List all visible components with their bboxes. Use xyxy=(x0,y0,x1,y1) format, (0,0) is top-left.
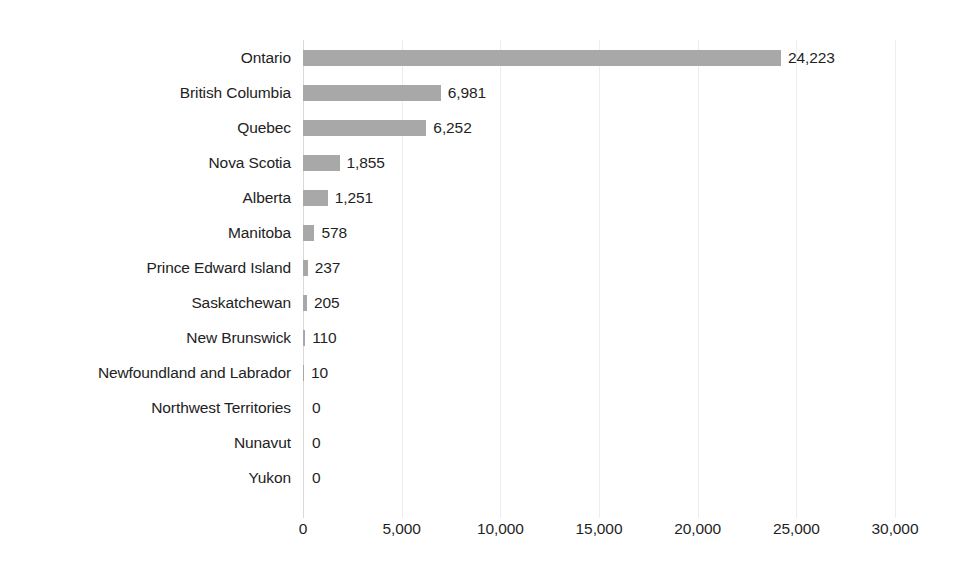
bar-value-label: 1,251 xyxy=(335,190,373,206)
bar-container: 578 xyxy=(303,215,960,250)
bar-value-label: 24,223 xyxy=(788,50,835,66)
category-label: New Brunswick xyxy=(0,330,291,346)
bar-row: Alberta1,251 xyxy=(0,180,960,215)
x-tick-label: 5,000 xyxy=(383,521,421,537)
bar-row: Manitoba578 xyxy=(0,215,960,250)
bar-container: 10 xyxy=(303,355,960,390)
bar-container: 0 xyxy=(303,460,960,495)
bar-row: Prince Edward Island237 xyxy=(0,250,960,285)
bar-row: Saskatchewan205 xyxy=(0,285,960,320)
x-tick-label: 25,000 xyxy=(773,521,820,537)
bar[interactable] xyxy=(303,155,340,171)
bar[interactable] xyxy=(303,330,305,346)
bar-container: 1,855 xyxy=(303,145,960,180)
category-label: Ontario xyxy=(0,50,291,66)
bar[interactable] xyxy=(303,120,426,136)
x-axis-tick-labels: 05,00010,00015,00020,00025,00030,000 xyxy=(0,521,960,545)
bar-container: 6,981 xyxy=(303,75,960,110)
category-label: Northwest Territories xyxy=(0,400,291,416)
bar-container: 0 xyxy=(303,390,960,425)
bar-value-label: 6,981 xyxy=(448,85,486,101)
category-label: Manitoba xyxy=(0,225,291,241)
bar-value-label: 0 xyxy=(312,470,321,486)
bar-container: 6,252 xyxy=(303,110,960,145)
bar-row: Nova Scotia1,855 xyxy=(0,145,960,180)
category-label: Quebec xyxy=(0,120,291,136)
bar[interactable] xyxy=(303,225,314,241)
bar-value-label: 237 xyxy=(315,260,341,276)
bar[interactable] xyxy=(303,295,307,311)
category-label: Newfoundland and Labrador xyxy=(0,365,291,381)
category-label: Nunavut xyxy=(0,435,291,451)
bar-container: 237 xyxy=(303,250,960,285)
x-tick-label: 30,000 xyxy=(872,521,919,537)
bar-row: Northwest Territories0 xyxy=(0,390,960,425)
bar[interactable] xyxy=(303,260,308,276)
bar-container: 24,223 xyxy=(303,40,960,75)
bar-row: Nunavut0 xyxy=(0,425,960,460)
bar-value-label: 0 xyxy=(312,400,321,416)
category-label: British Columbia xyxy=(0,85,291,101)
bar-container: 205 xyxy=(303,285,960,320)
bar-container: 0 xyxy=(303,425,960,460)
category-label: Prince Edward Island xyxy=(0,260,291,276)
bar-row: British Columbia6,981 xyxy=(0,75,960,110)
category-label: Nova Scotia xyxy=(0,155,291,171)
bar-value-label: 1,855 xyxy=(347,155,385,171)
bar-value-label: 6,252 xyxy=(433,120,471,136)
x-tick-label: 0 xyxy=(299,521,308,537)
bar-value-label: 110 xyxy=(312,330,336,346)
bar-chart: Ontario24,223British Columbia6,981Quebec… xyxy=(0,0,960,569)
bar-row: Quebec6,252 xyxy=(0,110,960,145)
x-tick-label: 20,000 xyxy=(674,521,721,537)
bar-rows: Ontario24,223British Columbia6,981Quebec… xyxy=(0,40,960,495)
category-label: Yukon xyxy=(0,470,291,486)
bar-row: New Brunswick110 xyxy=(0,320,960,355)
bar-value-label: 205 xyxy=(314,295,340,311)
bar[interactable] xyxy=(303,190,328,206)
bar-row: Newfoundland and Labrador10 xyxy=(0,355,960,390)
bar-value-label: 578 xyxy=(321,225,347,241)
bar-value-label: 10 xyxy=(311,365,328,381)
bar-container: 1,251 xyxy=(303,180,960,215)
category-label: Saskatchewan xyxy=(0,295,291,311)
category-label: Alberta xyxy=(0,190,291,206)
bar-value-label: 0 xyxy=(312,435,321,451)
x-tick-label: 10,000 xyxy=(477,521,524,537)
bar-row: Ontario24,223 xyxy=(0,40,960,75)
bar[interactable] xyxy=(303,50,781,66)
bar[interactable] xyxy=(303,365,304,381)
bar[interactable] xyxy=(303,85,441,101)
bar-row: Yukon0 xyxy=(0,460,960,495)
bar-container: 110 xyxy=(303,320,960,355)
x-tick-label: 15,000 xyxy=(576,521,623,537)
